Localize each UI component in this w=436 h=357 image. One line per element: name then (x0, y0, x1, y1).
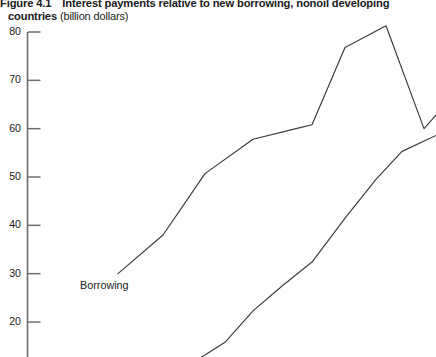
plot-area: 80706050403020 Borrowing (0, 0, 436, 357)
y-axis-tick-label: 80 (1, 26, 21, 36)
y-axis-tick-label: 70 (1, 74, 21, 84)
figure-container: Figure 4.1Interest payments relative to … (0, 0, 436, 357)
y-axis-ticks (28, 32, 41, 322)
data-series-group (118, 26, 436, 357)
y-axis-tick-label: 40 (1, 219, 21, 229)
y-axis-tick-label: 60 (1, 123, 21, 133)
series-line-borrowing (118, 26, 436, 274)
chart-canvas (0, 0, 436, 357)
y-axis-tick-label: 20 (1, 316, 21, 326)
y-axis-tick-label: 30 (1, 268, 21, 278)
y-axis-tick-label: 50 (1, 171, 21, 181)
series-label-borrowing: Borrowing (80, 280, 129, 291)
series-line-interest-payments (196, 135, 436, 357)
